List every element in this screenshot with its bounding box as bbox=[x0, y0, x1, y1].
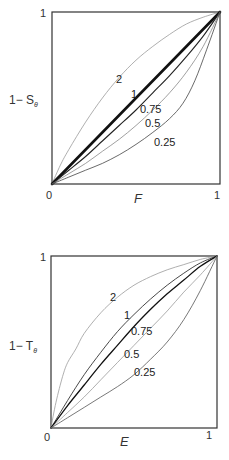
curve-2 bbox=[51, 256, 217, 428]
x-tick-0-bottom: 0 bbox=[44, 431, 50, 443]
y-tick-1-top: 1 bbox=[40, 7, 46, 19]
curves-bottom bbox=[51, 256, 217, 428]
y-axis-label-top: 1− Sθ bbox=[9, 93, 38, 108]
curve-label-0.75: 0.75 bbox=[140, 103, 161, 115]
curve-label-0.25: 0.25 bbox=[154, 136, 175, 148]
x-axis-label-bottom: E bbox=[120, 434, 129, 449]
y-axis-label-main: 1− S bbox=[9, 93, 34, 107]
curve-label-0.5: 0.5 bbox=[145, 117, 160, 129]
y-axis-label-main: 1− T bbox=[9, 339, 34, 353]
curve-label-1: 1 bbox=[131, 88, 137, 100]
curve-label-2: 2 bbox=[110, 291, 116, 303]
curve-label-0.5: 0.5 bbox=[124, 348, 139, 360]
panel-top: 2 1 0.75 0.5 0.25 1 0 1 F 1− Sθ bbox=[9, 7, 220, 206]
y-axis-label-bottom: 1− Tθ bbox=[9, 339, 37, 354]
curve-0_75 bbox=[51, 256, 217, 428]
x-axis-label-top: F bbox=[134, 191, 143, 206]
y-tick-1-bottom: 1 bbox=[40, 251, 46, 263]
curve-label-0.75: 0.75 bbox=[131, 325, 152, 337]
y-axis-label-subscript: θ bbox=[34, 101, 38, 108]
curve-label-1: 1 bbox=[124, 309, 130, 321]
x-tick-1-top: 1 bbox=[214, 189, 220, 201]
curve-label-2: 2 bbox=[116, 73, 122, 85]
curve-0_25 bbox=[51, 256, 217, 428]
curve-0_5 bbox=[51, 256, 217, 428]
plot-frame-bottom bbox=[51, 256, 217, 428]
x-tick-1-bottom: 1 bbox=[206, 429, 212, 441]
curve-label-0.25: 0.25 bbox=[134, 366, 155, 378]
panel-bottom: 2 1 0.75 0.5 0.25 1 0 1 E 1− Tθ bbox=[9, 251, 217, 449]
curve-labels-bottom: 2 1 0.75 0.5 0.25 bbox=[110, 291, 155, 378]
y-axis-label-subscript: θ bbox=[33, 347, 37, 354]
x-tick-0-top: 0 bbox=[46, 189, 52, 201]
diagram-canvas: 2 1 0.75 0.5 0.25 1 0 1 F 1− Sθ 2 1 0.75… bbox=[0, 0, 229, 460]
curve-1 bbox=[51, 256, 217, 428]
